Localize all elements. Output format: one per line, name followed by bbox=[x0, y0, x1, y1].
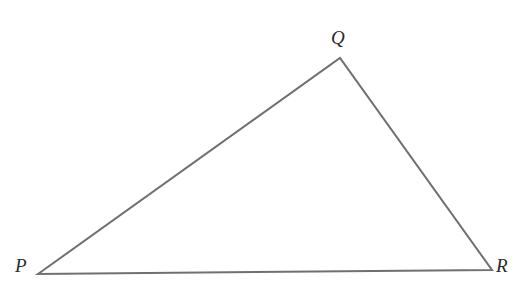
vertex-label-r: R bbox=[496, 256, 508, 275]
vertex-label-p: P bbox=[15, 256, 27, 275]
triangle-svg bbox=[0, 0, 530, 290]
triangle-diagram-canvas: P Q R bbox=[0, 0, 530, 290]
triangle-pqr-shape bbox=[38, 58, 492, 274]
vertex-label-q: Q bbox=[331, 28, 345, 47]
